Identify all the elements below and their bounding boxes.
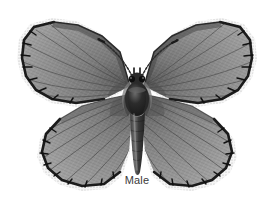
right-eye (139, 76, 145, 82)
butterfly-illustration (0, 0, 274, 208)
left-eye (129, 76, 135, 82)
butterfly-figure: Male (0, 0, 274, 208)
